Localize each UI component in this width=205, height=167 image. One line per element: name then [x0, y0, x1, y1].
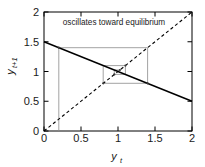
y-tick-label-4: 2: [33, 6, 39, 18]
y-tick-label-3: 1.5: [24, 36, 39, 48]
x-tick-label-4: 2: [189, 132, 195, 144]
x-tick-label-3: 1.5: [147, 132, 162, 144]
annotation-text: oscillates toward equilibrium: [63, 18, 166, 27]
y-tick-label-0: 0: [33, 125, 39, 137]
y-axis-title-sub: t+1: [10, 57, 19, 68]
x-tick-label-2: 1: [115, 132, 121, 144]
x-tick-label-1: 0.5: [73, 132, 88, 144]
cobweb-figure: 0 0.5 1 1.5 2 0 0.5 1 1.5 2 y t y t+1 os…: [0, 0, 205, 167]
plot-svg: 0 0.5 1 1.5 2 0 0.5 1 1.5 2 y t y t+1 os…: [0, 0, 205, 167]
x-tick-label-0: 0: [41, 132, 47, 144]
y-tick-label-2: 1: [33, 66, 39, 78]
y-tick-label-1: 0.5: [24, 95, 39, 107]
